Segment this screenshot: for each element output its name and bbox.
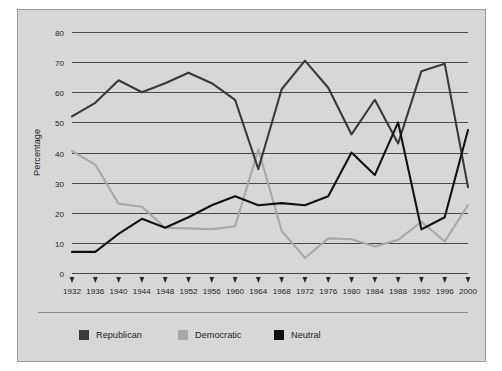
x-tick-label: 1988 [389, 287, 408, 296]
x-tick-label: 1944 [133, 287, 152, 296]
x-tick-label: 1976 [319, 287, 338, 296]
y-gridlines: 01020304050607080 [55, 29, 468, 279]
legend-swatch-democratic[interactable] [178, 330, 188, 340]
y-tick-label: 30 [55, 180, 65, 189]
x-tick-marker [233, 277, 238, 283]
x-tick-marker [419, 277, 424, 283]
x-tick-label: 1984 [366, 287, 385, 296]
y-tick-label: 80 [55, 29, 65, 38]
x-tick-marker [70, 277, 75, 283]
legend-label-neutral[interactable]: Neutral [291, 330, 321, 340]
x-tick-label: 1968 [273, 287, 292, 296]
x-tick-marker [93, 277, 98, 283]
series-group [72, 61, 468, 258]
x-tick-marker [256, 277, 261, 283]
y-tick-label: 40 [55, 150, 65, 159]
x-tick-label: 1932 [63, 287, 82, 296]
chart-plate: 01020304050607080Percentage1932193619401… [17, 9, 486, 362]
x-tick-marker [303, 277, 308, 283]
x-tick-marker [396, 277, 401, 283]
legend-label-democratic[interactable]: Democratic [195, 330, 242, 340]
x-tick-label: 1964 [249, 287, 268, 296]
legend: RepublicanDemocraticNeutral [79, 330, 321, 340]
x-tick-marker [372, 277, 377, 283]
x-tick-marker [163, 277, 168, 283]
y-tick-label: 50 [55, 119, 65, 128]
x-tick-label: 1952 [179, 287, 198, 296]
legend-label-republican[interactable]: Republican [96, 330, 142, 340]
y-tick-label: 10 [55, 240, 65, 249]
x-tick-marker [186, 277, 191, 283]
x-tick-marker [279, 277, 284, 283]
x-tick-label: 1980 [343, 287, 362, 296]
x-tick-marker [349, 277, 354, 283]
legend-swatch-neutral[interactable] [274, 330, 284, 340]
y-axis-title: Percentage [32, 129, 42, 176]
x-axis-ticks: 1932193619401944194819521956196019641968… [63, 277, 478, 296]
x-tick-marker [209, 277, 214, 283]
legend-swatch-republican[interactable] [79, 330, 89, 340]
y-tick-label: 20 [55, 210, 65, 219]
y-tick-label: 0 [59, 270, 64, 279]
x-tick-marker [116, 277, 121, 283]
x-tick-marker [139, 277, 144, 283]
x-tick-label: 1992 [412, 287, 431, 296]
figure-container: 01020304050607080Percentage1932193619401… [0, 0, 502, 371]
y-tick-label: 70 [55, 59, 65, 68]
y-tick-label: 60 [55, 89, 65, 98]
x-tick-label: 1940 [110, 287, 129, 296]
x-tick-label: 1996 [436, 287, 455, 296]
x-tick-label: 1972 [296, 287, 315, 296]
x-tick-label: 1956 [203, 287, 222, 296]
x-tick-label: 1948 [156, 287, 175, 296]
x-tick-label: 1960 [226, 287, 245, 296]
x-tick-label: 2000 [459, 287, 478, 296]
line-chart: 01020304050607080Percentage1932193619401… [18, 10, 485, 361]
x-tick-label: 1936 [86, 287, 105, 296]
x-tick-marker [466, 277, 471, 283]
x-tick-marker [442, 277, 447, 283]
x-tick-marker [326, 277, 331, 283]
